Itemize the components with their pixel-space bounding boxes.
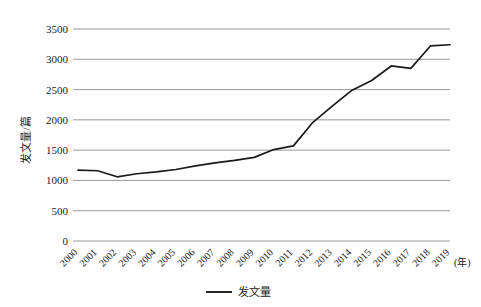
chart-figure: 0500100015002000250030003500 20002001200… <box>0 0 481 307</box>
y-tick-label: 2500 <box>46 84 69 96</box>
y-tick-label: 0 <box>63 235 69 247</box>
y-tick-label: 1500 <box>46 144 69 156</box>
y-axis-title: 发文量/篇 <box>19 116 32 163</box>
y-tick-label: 500 <box>52 205 69 217</box>
y-tick-label: 2000 <box>46 114 69 126</box>
line-chart: 0500100015002000250030003500 20002001200… <box>0 0 481 307</box>
y-tick-label: 3000 <box>46 53 69 65</box>
x-axis-unit-label: (年) <box>454 256 471 269</box>
y-tick-label: 1000 <box>46 174 69 186</box>
y-tick-label: 3500 <box>46 23 69 35</box>
legend-item-label: 发文量 <box>238 285 271 298</box>
